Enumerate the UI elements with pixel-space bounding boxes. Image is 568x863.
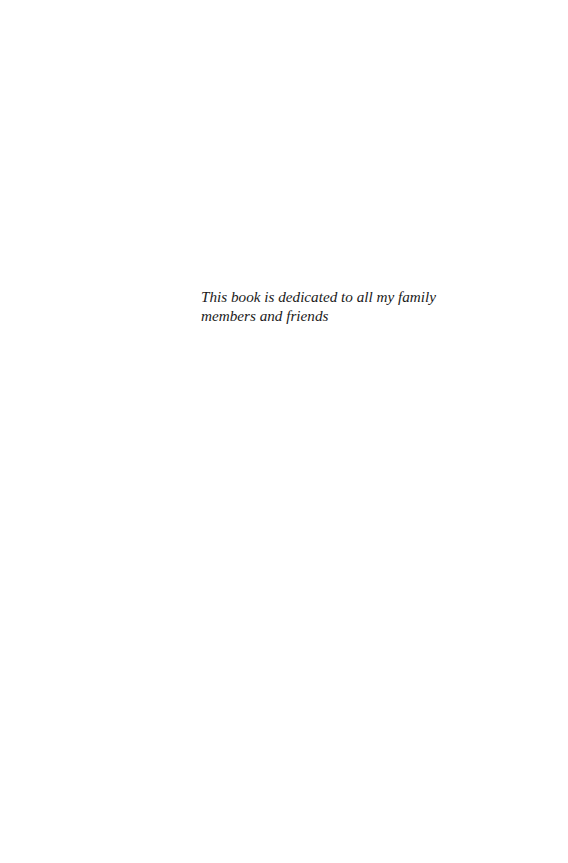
dedication-line-2: members and friends [201, 306, 461, 325]
dedication-text: This book is dedicated to all my family … [201, 287, 461, 325]
dedication-page: This book is dedicated to all my family … [0, 0, 568, 863]
dedication-line-1: This book is dedicated to all my family [201, 287, 461, 306]
